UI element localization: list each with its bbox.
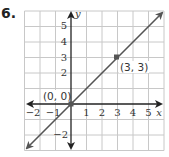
x-axis-label: x <box>156 107 162 118</box>
y-tick-label: 2 <box>61 67 67 78</box>
x-tick-label: 2 <box>99 107 105 118</box>
point-origin <box>69 102 74 107</box>
point-label-3-3: (3, 3) <box>120 61 148 73</box>
point-label-origin: (0, 0) <box>43 90 71 102</box>
x-tick-label: −2 <box>26 107 41 118</box>
y-tick-label: 3 <box>61 52 67 63</box>
y-tick-label: 4 <box>61 36 67 47</box>
y-tick-label: −2 <box>53 129 68 140</box>
y-axis-label: y <box>74 8 81 19</box>
y-tick-label: 5 <box>61 20 67 31</box>
x-tick-label: 3 <box>114 107 120 118</box>
point-3-3 <box>114 55 119 60</box>
x-tick-label: 4 <box>130 107 136 118</box>
x-tick-label: 5 <box>145 107 151 118</box>
x-tick-label: −1 <box>46 107 61 118</box>
coordinate-graph: −2 −1 1 2 3 4 5 x 5 4 3 2 −2 y (0, 0) (3… <box>0 0 169 157</box>
x-tick-label: 1 <box>83 107 89 118</box>
